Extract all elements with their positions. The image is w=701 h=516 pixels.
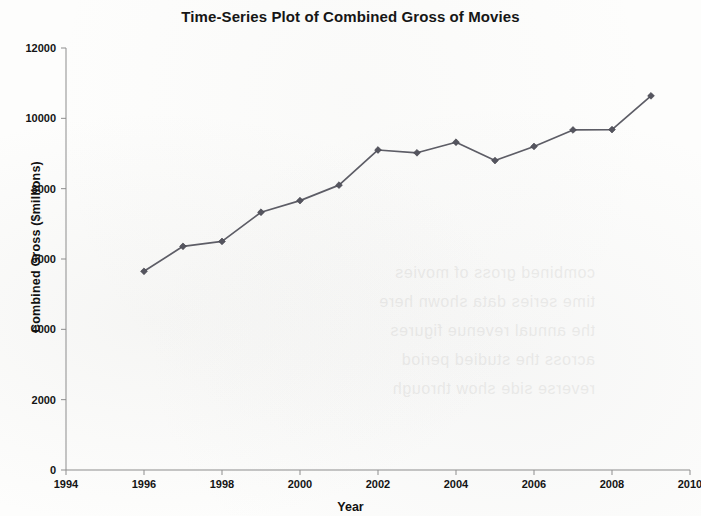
y-axis-title: Combined Gross ($millions) (29, 137, 43, 357)
y-tick-label: 12000 (25, 42, 56, 54)
data-point-marker (453, 139, 460, 146)
y-tick-label: 0 (50, 464, 56, 476)
line-chart-plot: 020004000600080001000012000 199419961998… (0, 0, 701, 516)
x-tick-label: 1998 (210, 478, 234, 490)
data-point-marker (531, 143, 538, 150)
x-tick-label: 2010 (678, 478, 701, 490)
chart-page: combined gross of movies time series dat… (0, 0, 701, 516)
data-point-marker (570, 127, 577, 134)
x-tick-label: 2004 (444, 478, 469, 490)
x-tick-label: 2000 (288, 478, 312, 490)
x-tick-label: 1996 (132, 478, 156, 490)
x-tick-label: 2006 (522, 478, 546, 490)
x-tick-label: 2002 (366, 478, 390, 490)
x-axis-ticks: 199419961998200020022004200620082010 (54, 470, 701, 490)
y-tick-label: 2000 (32, 394, 56, 406)
data-point-marker (492, 157, 499, 164)
series-markers (141, 92, 655, 274)
x-axis-title: Year (0, 500, 701, 514)
x-tick-label: 1994 (54, 478, 79, 490)
data-point-marker (297, 197, 304, 204)
data-point-marker (414, 149, 421, 156)
x-tick-label: 2008 (600, 478, 624, 490)
series-line-combined-gross (144, 96, 651, 271)
y-tick-label: 10000 (25, 112, 56, 124)
